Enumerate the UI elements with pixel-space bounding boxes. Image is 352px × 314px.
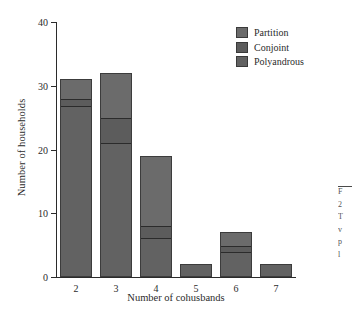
y-tick-label: 30 [38,80,48,91]
bar-segment-polyandrous [141,238,171,276]
bar-segment-partition [221,233,251,245]
margin-note-text: F2Tvpl [338,186,352,261]
margin-note-line: 2 [338,199,352,212]
bar-segment-conjoint [141,226,171,239]
bar-segment-partition [61,80,91,99]
legend-label: Polyandrous [254,56,304,67]
legend-item-conjoint[interactable]: Conjoint [236,42,304,53]
y-axis-line [56,22,57,277]
bar-segment-polyandrous [61,106,91,276]
bar-6[interactable] [220,232,252,277]
y-tick-label: 40 [38,17,48,28]
margin-note-line: l [338,249,352,262]
bar-segment-partition [101,74,131,118]
y-tick-mark [51,150,56,151]
legend-label: Partition [254,27,288,38]
margin-note-line: T [338,211,352,224]
margin-note-line: v [338,224,352,237]
bar-3[interactable] [100,73,132,277]
legend-item-partition[interactable]: Partition [236,27,304,38]
bar-2[interactable] [60,79,92,277]
bar-segment-polyandrous [101,143,131,276]
y-tick-mark [51,213,56,214]
legend-swatch-icon [236,42,248,53]
bar-7[interactable] [260,264,292,277]
x-axis-line [56,277,296,278]
chart-figure: Number of households 010203040 234567 Nu… [0,0,352,314]
bar-4[interactable] [140,156,172,277]
y-axis-title: Number of households [16,63,27,233]
y-tick-label: 10 [38,208,48,219]
bar-segment-partition [141,157,171,226]
y-tick-mark [51,86,56,87]
bar-segment-polyandrous [221,252,251,276]
legend-swatch-icon [236,56,248,67]
y-tick-label: 0 [43,272,48,283]
x-axis-title: Number of cohusbands [56,292,296,303]
margin-note-line: F [338,186,352,199]
bar-5[interactable] [180,264,212,277]
chart-legend: PartitionConjointPolyandrous [236,27,304,67]
bar-segment-polyandrous [261,265,291,276]
bar-segment-polyandrous [181,265,211,276]
legend-label: Conjoint [254,42,289,53]
margin-note-line: p [338,236,352,249]
legend-swatch-icon [236,27,248,38]
y-tick-label: 20 [38,144,48,155]
legend-item-polyandrous[interactable]: Polyandrous [236,56,304,67]
bar-segment-conjoint [101,118,131,143]
y-tick-mark [51,277,56,278]
y-tick-mark [51,22,56,23]
